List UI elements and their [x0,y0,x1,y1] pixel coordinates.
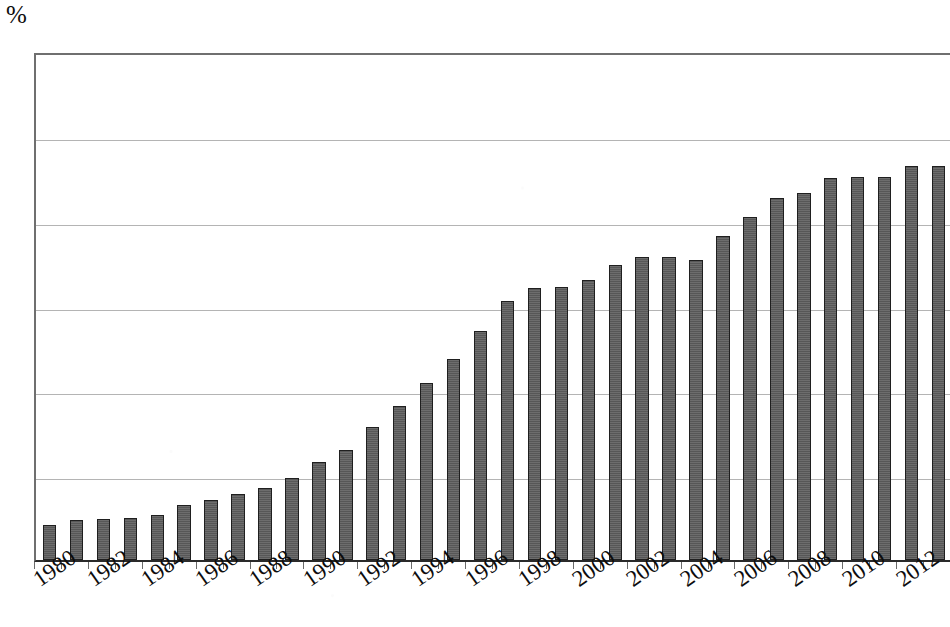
plot-area [34,53,950,562]
bar [312,462,325,560]
bar [609,265,622,560]
bar [204,500,217,560]
bar [824,178,837,560]
bar [851,177,864,560]
bar [393,406,406,560]
bar [501,301,514,560]
bar [231,494,244,560]
bar [662,257,675,560]
bar [474,331,487,560]
bar [258,488,271,560]
bar [905,166,918,560]
bar [689,260,702,560]
bar [528,288,541,560]
bar [366,427,379,560]
chart-page: % 0102030405060 198019821984198619881990… [0,0,950,627]
bar [447,359,460,560]
bar [770,198,783,560]
bar [797,193,810,560]
bar [339,450,352,560]
bar [420,383,433,560]
bar [932,166,945,560]
bar [582,280,595,560]
bar [635,257,648,560]
bar-series [36,55,950,560]
y-axis-unit-label: % [6,2,27,27]
bar [716,236,729,560]
bar [285,478,298,560]
bar [743,217,756,560]
bar [555,287,568,560]
bar [878,177,891,560]
